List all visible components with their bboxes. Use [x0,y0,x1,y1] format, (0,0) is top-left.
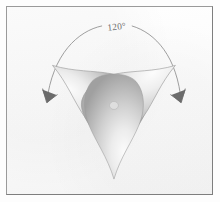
figure-border: 120° [6,6,213,195]
angle-label-text: 120° [107,21,127,33]
angle-arrow-right [170,89,185,103]
lobe-bottom [85,74,144,179]
orbital-diagram-svg: 120° [7,7,212,194]
orbital-lobes-group [36,41,191,179]
nucleus-center [110,101,119,109]
figure-frame: 120° [0,0,220,202]
angle-arrow-left [42,89,57,103]
